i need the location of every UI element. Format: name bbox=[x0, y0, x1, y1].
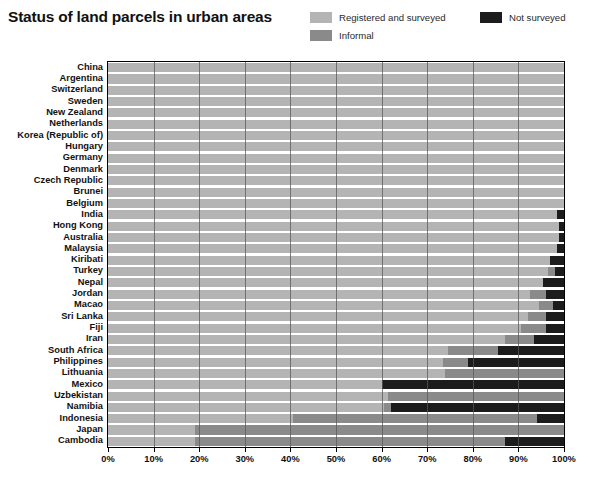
bar-segment-not-surveyed bbox=[559, 233, 564, 242]
x-axis-percent-scale: 0%10%20%30%40%50%60%70%80%90%100% bbox=[107, 448, 565, 470]
bar-segment-not-surveyed bbox=[534, 335, 564, 344]
bar-segment-registered-and-surveyed bbox=[108, 222, 559, 231]
bar-segment-informal bbox=[505, 335, 535, 344]
bar-segment-not-surveyed bbox=[557, 244, 564, 253]
bar-segment-registered-and-surveyed bbox=[108, 380, 382, 389]
bar-segment-registered-and-surveyed bbox=[108, 176, 564, 185]
x-axis-label: 100% bbox=[552, 454, 576, 464]
x-axis-tick bbox=[336, 448, 337, 452]
legend-item-informal: Informal bbox=[310, 30, 374, 41]
y-axis-label: Germany bbox=[0, 152, 103, 162]
y-axis-label: China bbox=[0, 62, 103, 72]
y-axis-label: Switzerland bbox=[0, 84, 103, 94]
x-axis-tick bbox=[473, 448, 474, 452]
bar-row bbox=[108, 278, 564, 287]
bar-segment-not-surveyed bbox=[550, 256, 564, 265]
bar-segment-not-surveyed bbox=[553, 301, 564, 310]
y-axis-label: Netherlands bbox=[0, 118, 103, 128]
y-axis-label: Kiribati bbox=[0, 254, 103, 264]
y-axis-label: Australia bbox=[0, 232, 103, 242]
x-axis-label: 30% bbox=[235, 454, 254, 464]
bar-segment-registered-and-surveyed bbox=[108, 165, 564, 174]
bar-row bbox=[108, 324, 564, 333]
y-axis-label: Jordan bbox=[0, 288, 103, 298]
bar-row bbox=[108, 131, 564, 140]
y-axis-label: Mexico bbox=[0, 379, 103, 389]
footnote-text bbox=[8, 470, 308, 480]
y-axis-label: Brunei bbox=[0, 186, 103, 196]
x-axis-tick bbox=[564, 448, 565, 452]
bar-segment-informal bbox=[384, 403, 391, 412]
legend-swatch-registered-and-surveyed bbox=[310, 12, 332, 23]
y-axis-label: Namibia bbox=[0, 401, 103, 411]
bar-row bbox=[108, 267, 564, 276]
bar-segment-informal bbox=[195, 437, 505, 446]
y-axis-label: Nepal bbox=[0, 277, 103, 287]
bar-row bbox=[108, 188, 564, 197]
legend-label-informal: Informal bbox=[339, 30, 374, 41]
x-axis-label: 70% bbox=[418, 454, 437, 464]
y-axis-label: India bbox=[0, 209, 103, 219]
y-axis-label: Argentina bbox=[0, 73, 103, 83]
bar-segment-not-surveyed bbox=[557, 210, 564, 219]
bar-row bbox=[108, 154, 564, 163]
bar-segment-registered-and-surveyed bbox=[108, 233, 559, 242]
bar-row bbox=[108, 142, 564, 151]
x-axis-label: 90% bbox=[509, 454, 528, 464]
bar-segment-registered-and-surveyed bbox=[108, 278, 543, 287]
bar-segment-informal bbox=[528, 312, 546, 321]
bar-segment-registered-and-surveyed bbox=[108, 244, 557, 253]
bar-segment-informal bbox=[521, 324, 546, 333]
bar-segment-registered-and-surveyed bbox=[108, 188, 564, 197]
bar-segment-informal bbox=[539, 301, 553, 310]
y-axis-label: Czech Republic bbox=[0, 175, 103, 185]
y-axis-label: South Africa bbox=[0, 345, 103, 355]
y-axis-label: Malaysia bbox=[0, 243, 103, 253]
y-axis-label: Sweden bbox=[0, 96, 103, 106]
bar-segment-informal bbox=[530, 290, 546, 299]
bar-segment-informal bbox=[443, 358, 468, 367]
bar-segment-registered-and-surveyed bbox=[108, 301, 539, 310]
bar-segment-informal bbox=[388, 392, 564, 401]
bar-row bbox=[108, 74, 564, 83]
legend-label-not-surveyed: Not surveyed bbox=[509, 12, 566, 23]
legend-item-not-surveyed: Not surveyed bbox=[480, 12, 566, 23]
x-axis-label: 40% bbox=[281, 454, 300, 464]
y-axis-label: Macao bbox=[0, 299, 103, 309]
bar-segment-registered-and-surveyed bbox=[108, 392, 388, 401]
y-axis-label: Japan bbox=[0, 424, 103, 434]
y-axis-label: Hungary bbox=[0, 141, 103, 151]
bar-segment-informal bbox=[448, 346, 498, 355]
bar-row bbox=[108, 244, 564, 253]
x-axis-tick bbox=[427, 448, 428, 452]
plot-inner bbox=[108, 62, 564, 447]
bar-segment-registered-and-surveyed bbox=[108, 199, 564, 208]
y-axis-label: Turkey bbox=[0, 265, 103, 275]
bar-segment-not-surveyed bbox=[505, 437, 564, 446]
y-axis-label: Uzbekistan bbox=[0, 390, 103, 400]
bar-segment-registered-and-surveyed bbox=[108, 131, 564, 140]
x-axis-label: 50% bbox=[327, 454, 346, 464]
y-axis-label: Denmark bbox=[0, 164, 103, 174]
bar-segment-registered-and-surveyed bbox=[108, 403, 384, 412]
bar-segment-informal bbox=[293, 414, 537, 423]
y-axis-label: Korea (Republic of) bbox=[0, 130, 103, 140]
bar-rows bbox=[108, 62, 564, 447]
bar-segment-registered-and-surveyed bbox=[108, 120, 564, 129]
y-axis-label: Hong Kong bbox=[0, 220, 103, 230]
bar-row bbox=[108, 210, 564, 219]
bar-segment-registered-and-surveyed bbox=[108, 86, 564, 95]
bar-segment-registered-and-surveyed bbox=[108, 108, 564, 117]
x-axis-tick bbox=[154, 448, 155, 452]
bar-segment-registered-and-surveyed bbox=[108, 324, 521, 333]
bar-row bbox=[108, 176, 564, 185]
bar-segment-not-surveyed bbox=[546, 324, 564, 333]
bar-segment-registered-and-surveyed bbox=[108, 63, 564, 72]
bar-segment-registered-and-surveyed bbox=[108, 290, 530, 299]
x-axis-label: 60% bbox=[372, 454, 391, 464]
legend-swatch-not-surveyed bbox=[480, 12, 502, 23]
x-axis-tick bbox=[518, 448, 519, 452]
bar-segment-registered-and-surveyed bbox=[108, 414, 293, 423]
x-axis-tick bbox=[108, 448, 109, 452]
bar-segment-registered-and-surveyed bbox=[108, 335, 505, 344]
